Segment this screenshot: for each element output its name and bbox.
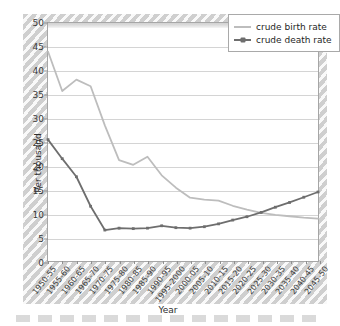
x-axis-tick-mark [77,261,78,264]
caption-smudge [16,315,316,322]
x-axis-tick-mark [234,261,235,264]
x-axis-tick-mark [320,261,321,264]
y-axis-tick-label: 40 [33,67,44,76]
x-axis-tick-mark [177,261,178,264]
data-point-marker [61,157,64,160]
legend: crude birth ratecrude death rate [228,14,340,52]
x-axis-tick-mark [277,261,278,264]
y-axis-title: Per thousand [33,133,43,192]
data-point-marker [132,227,135,230]
data-point-marker [302,196,305,199]
series-line-crude-death-rate [48,140,318,230]
x-axis-tick-mark [205,261,206,264]
data-point-marker [288,201,291,204]
data-point-marker [203,225,206,228]
y-axis-tick-label: 35 [33,91,44,100]
data-point-marker [47,138,50,141]
x-axis-tick-mark [105,261,106,264]
x-axis-title: Year [0,305,336,315]
x-axis-tick-mark [248,261,249,264]
data-point-marker [75,175,78,178]
y-axis-tick-label: 30 [33,115,44,124]
legend-label: crude death rate [256,35,332,45]
legend-item-crude-birth-rate[interactable]: crude birth rate [234,20,332,33]
y-axis-tick-label: 10 [33,211,44,220]
x-axis-tick-mark [91,261,92,264]
data-point-marker [260,211,263,214]
legend-swatch-icon [234,35,251,45]
data-point-marker [217,222,220,225]
data-point-marker [160,224,163,227]
x-axis-tick-mark [291,261,292,264]
x-axis-tick-mark [120,261,121,264]
x-axis-tick-mark [191,261,192,264]
x-axis-tick-mark [148,261,149,264]
data-point-marker [246,215,249,218]
data-point-marker [189,227,192,230]
y-axis-tick-label: 45 [33,43,44,52]
x-axis-tick-mark [306,261,307,264]
x-axis-tick-mark [62,261,63,264]
data-point-marker [89,205,92,208]
data-point-marker [118,227,121,230]
legend-label: crude birth rate [256,22,327,32]
data-point-marker [317,191,320,194]
data-point-marker [103,229,106,232]
x-axis-tick-mark [163,261,164,264]
series-line-crude-birth-rate [48,52,318,219]
y-axis-tick-label: 50 [33,19,44,28]
data-point-marker [231,219,234,222]
x-axis-tick-mark [134,261,135,264]
series-layer [48,23,318,261]
legend-item-crude-death-rate[interactable]: crude death rate [234,33,332,46]
legend-swatch-icon [234,22,251,32]
x-axis-tick-mark [263,261,264,264]
plot-area: 05101520253035404550 [47,22,319,262]
x-axis-tick-mark [220,261,221,264]
data-point-marker [175,226,178,229]
data-point-marker [274,206,277,209]
data-point-marker [146,227,149,230]
x-axis-tick-mark [48,261,49,264]
